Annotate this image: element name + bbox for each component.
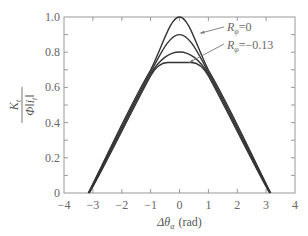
y-axis-title: Kt Φ‖it‖ [7,87,39,123]
svg-text:2: 2 [234,198,240,212]
svg-text:0.2: 0.2 [45,151,60,165]
svg-text:3: 3 [263,198,269,212]
y-ticks [64,35,295,176]
annotation-leaders [190,27,224,62]
svg-text:0: 0 [54,186,60,200]
svg-text:4: 4 [292,198,298,212]
svg-text:1: 1 [205,198,211,212]
curve-mid1 [89,35,271,193]
svg-text:Φ‖it‖: Φ‖it‖ [23,94,39,115]
annotation-r0: Rφ=0 [226,20,252,36]
svg-text:Kt: Kt [7,99,23,111]
svg-text:−2: −2 [115,198,128,212]
curve-mid2 [89,52,270,193]
y-tick-labels: 0 0.2 0.4 0.6 0.8 1.0 [45,10,60,200]
svg-text:0: 0 [177,198,183,212]
svg-text:0.4: 0.4 [45,116,60,130]
svg-text:0.6: 0.6 [45,80,60,94]
svg-text:−3: −3 [87,198,100,212]
svg-text:−4: −4 [58,198,71,212]
svg-text:1.0: 1.0 [45,10,60,24]
svg-text:0.8: 0.8 [45,45,60,59]
x-axis-title: Δθα(rad) [156,215,201,231]
line-chart: −4 −3 −2 −1 0 1 2 3 4 0 0.2 0.4 0.6 0.8 … [0,0,308,236]
x-tick-labels: −4 −3 −2 −1 0 1 2 3 4 [58,198,298,212]
curve-r013 [89,63,269,194]
svg-text:−1: −1 [144,198,157,212]
annotation-r013: Rφ=−0.13 [226,38,273,54]
